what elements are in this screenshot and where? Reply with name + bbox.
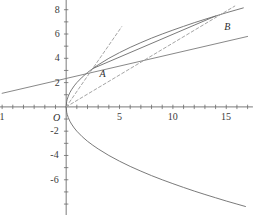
x-tick-label: 5 [117,112,122,122]
y-tick-label: -4 [50,150,58,160]
point-B-label: B [224,22,230,32]
y-tick-label: 6 [55,29,60,39]
y-tick-label: 4 [55,53,60,63]
chart-plot-area [0,0,254,215]
series-secant-O-to-A [66,27,121,107]
y-tick-label: -6 [50,175,58,185]
x-tick-label: 15 [221,112,231,122]
x-tick-label: 1 [0,112,5,122]
figure-canvas: ABO1510158642-2-4-6 [0,0,254,215]
series-secant-O-to-B [66,6,235,107]
point-A-label: A [99,69,105,79]
series-upper-branch [66,8,243,107]
y-tick-label: 8 [55,5,60,15]
series-lower-branch [66,107,245,207]
origin-label: O [53,113,60,123]
y-tick-label: 2 [55,78,60,88]
y-tick-label: -2 [50,126,58,136]
x-tick-label: 10 [168,112,178,122]
series-tangent-line-at-A [2,36,247,93]
